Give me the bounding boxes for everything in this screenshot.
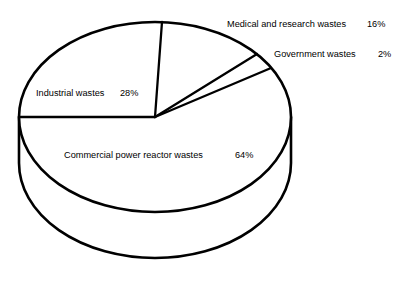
slice-percent-industrial: 28% <box>120 88 138 98</box>
slice-label-commercial: Commercial power reactor wastes <box>64 150 203 160</box>
pie-chart-svg: Medical and research wastes 16% Governme… <box>0 0 408 282</box>
slice-percent-commercial: 64% <box>235 150 253 160</box>
pie-chart-figure: Medical and research wastes 16% Governme… <box>0 0 408 282</box>
slice-percent-government: 2% <box>378 49 391 59</box>
slice-label-medical: Medical and research wastes <box>227 19 346 29</box>
slice-label-industrial: Industrial wastes <box>36 88 105 98</box>
slice-percent-medical: 16% <box>367 19 385 29</box>
slice-label-government: Government wastes <box>274 49 356 59</box>
